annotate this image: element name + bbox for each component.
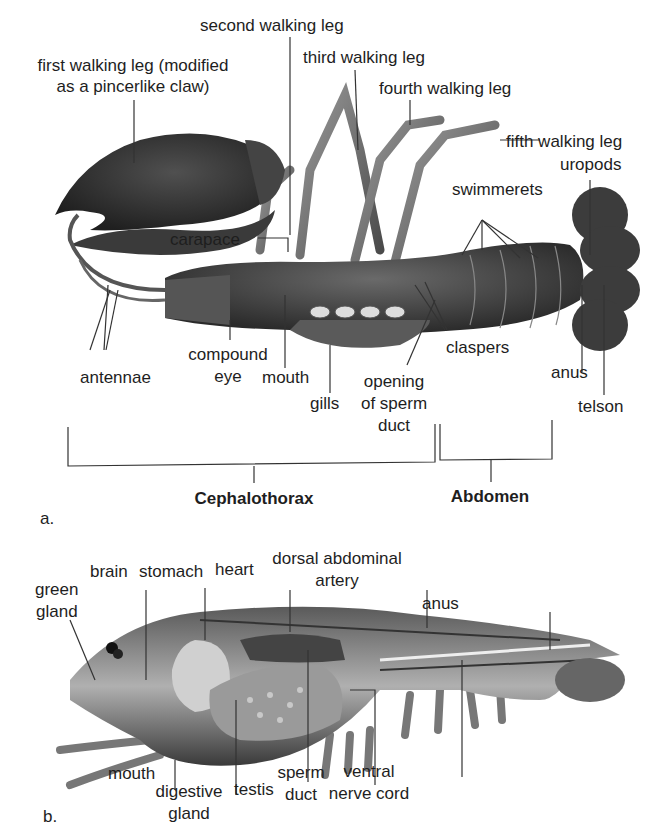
crayfish-section-illustration — [60, 607, 625, 785]
label-opening-line3: duct — [378, 416, 410, 435]
region-abdomen: Abdomen — [451, 487, 529, 506]
claw-shape — [55, 134, 273, 231]
label-compound-eye-line2: eye — [214, 367, 241, 386]
panel-label-a: a. — [40, 509, 54, 528]
label-carapace: carapace — [170, 230, 240, 249]
label-anus-b: anus — [422, 594, 459, 613]
label-ventral-nerve-line2: nerve cord — [329, 784, 409, 803]
walking-legs — [260, 95, 495, 262]
label-digestive-gland-line2: gland — [168, 804, 210, 823]
label-opening-line2: of sperm — [361, 394, 427, 413]
label-digestive-gland-line1: digestive — [155, 782, 222, 801]
label-ventral-nerve-line1: ventral — [343, 762, 394, 781]
panel-label-b: b. — [43, 807, 57, 824]
label-brain: brain — [90, 562, 128, 581]
label-first-walking-leg-line1: first walking leg (modified — [38, 56, 229, 75]
label-fourth-walking-leg: fourth walking leg — [379, 79, 511, 98]
label-fifth-walking-leg: fifth walking leg — [506, 132, 622, 151]
label-mouth: mouth — [262, 368, 309, 387]
region-brackets — [68, 420, 552, 483]
label-heart: heart — [215, 560, 254, 579]
label-telson: telson — [578, 397, 623, 416]
label-stomach: stomach — [139, 562, 203, 581]
label-anus-a: anus — [551, 363, 588, 382]
label-second-walking-leg: second walking leg — [200, 16, 344, 35]
label-third-walking-leg: third walking leg — [303, 48, 425, 67]
label-first-walking-leg-line2: as a pincerlike claw) — [56, 77, 209, 96]
label-gills: gills — [310, 394, 339, 413]
label-mouth-b: mouth — [108, 764, 155, 783]
label-antennae: antennae — [80, 368, 151, 387]
region-cephalothorax: Cephalothorax — [194, 489, 313, 508]
label-opening-line1: opening — [364, 372, 425, 391]
label-green-gland-line2: gland — [36, 602, 78, 621]
label-claspers: claspers — [446, 338, 509, 357]
label-compound-eye-line1: compound — [188, 345, 267, 364]
label-green-gland-line1: green — [35, 580, 78, 599]
label-dorsal-artery-line2: artery — [315, 571, 358, 590]
label-sperm-duct-line2: duct — [285, 785, 317, 804]
label-uropods: uropods — [560, 155, 621, 174]
label-dorsal-artery-line1: dorsal abdominal — [272, 549, 401, 568]
label-testis: testis — [234, 780, 274, 799]
label-swimmerets: swimmerets — [452, 180, 543, 199]
label-sperm-duct-line1: sperm — [277, 763, 324, 782]
